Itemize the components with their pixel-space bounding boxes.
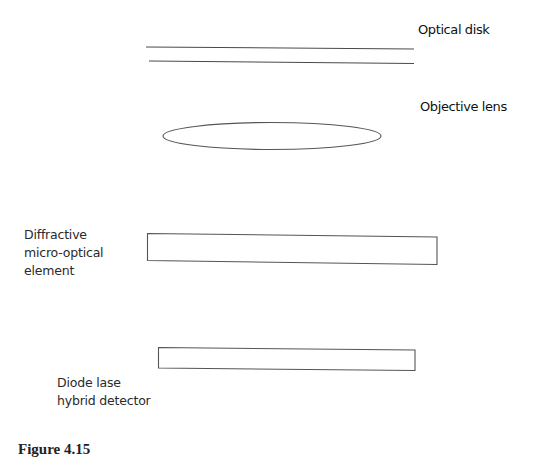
diffractive-element-label-line-3: element — [24, 262, 103, 280]
objective-lens-label-text: Objective lens — [420, 98, 507, 116]
diode-laser-detector-label-line-2: hybrid detector — [57, 392, 151, 410]
diode-laser-detector-label: Diode lase hybrid detector — [57, 374, 151, 410]
optical-disk-label-text: Optical disk — [418, 21, 489, 39]
diffractive-element-label: Diffractive micro-optical element — [24, 226, 103, 280]
optical-disk-shape — [146, 47, 414, 64]
diode-laser-detector-shape — [159, 348, 416, 371]
figure-number: Figure 4.15 — [18, 441, 90, 457]
diffractive-element-label-line-1: Diffractive — [24, 226, 103, 244]
diffractive-element-label-line-2: micro-optical — [24, 244, 103, 262]
optical-disk-label: Optical disk — [418, 21, 489, 39]
figure-caption: Figure 4.15 — [18, 441, 90, 458]
objective-lens-shape — [163, 123, 381, 150]
objective-lens-label: Objective lens — [420, 98, 507, 116]
diffractive-element-shape — [148, 234, 438, 265]
diode-laser-detector-label-line-1: Diode lase — [57, 374, 151, 392]
